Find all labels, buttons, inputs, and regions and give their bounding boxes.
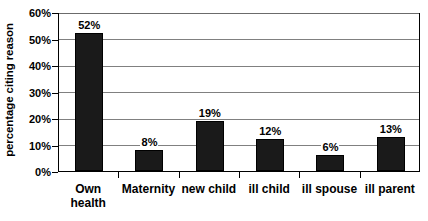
x-axis-category-label: ill parent bbox=[360, 182, 420, 196]
x-axis-category-label: new child bbox=[179, 182, 239, 196]
y-axis-tick-mark bbox=[52, 146, 58, 147]
x-axis-category-label: Own health bbox=[58, 182, 118, 210]
y-axis-tick-mark bbox=[52, 93, 58, 94]
y-axis-tick-label: 10% bbox=[29, 140, 51, 152]
bar[interactable] bbox=[316, 155, 344, 171]
y-axis-tick-label: 30% bbox=[29, 87, 51, 99]
bar-chart: percentage citing reason 0%10%20%30%40%5… bbox=[0, 0, 428, 221]
bar-value-label: 19% bbox=[198, 107, 222, 119]
bar-slot: 8% bbox=[119, 13, 179, 171]
x-axis-tick-mark bbox=[118, 172, 119, 178]
y-axis-tick-label: 0% bbox=[35, 166, 51, 178]
bar-slot: 19% bbox=[180, 13, 240, 171]
x-axis-tick-mark bbox=[360, 172, 361, 178]
y-axis-title-text: percentage citing reason bbox=[3, 23, 15, 157]
bar-slot: 6% bbox=[300, 13, 360, 171]
bar[interactable] bbox=[75, 33, 103, 171]
x-axis-category-label: ill child bbox=[239, 182, 299, 196]
bar-value-label: 6% bbox=[322, 141, 340, 153]
y-axis-tick-labels: 0%10%20%30%40%50%60% bbox=[18, 0, 54, 180]
bar-value-label: 8% bbox=[141, 136, 159, 148]
x-axis-category-labels: Own healthMaternitynew childill childill… bbox=[58, 182, 420, 221]
plot-area: 52%8%19%12%6%13% bbox=[58, 13, 420, 172]
bar[interactable] bbox=[377, 137, 405, 171]
bar-value-label: 13% bbox=[379, 123, 403, 135]
bar-slot: 52% bbox=[59, 13, 119, 171]
bar-value-label: 12% bbox=[258, 125, 282, 137]
bar[interactable] bbox=[256, 139, 284, 171]
bar[interactable] bbox=[196, 121, 224, 171]
bar-slot: 12% bbox=[240, 13, 300, 171]
bar[interactable] bbox=[135, 150, 163, 171]
y-axis-tick-mark bbox=[52, 66, 58, 67]
bar-slot: 13% bbox=[361, 13, 421, 171]
y-axis-tick-mark bbox=[52, 172, 58, 173]
y-axis-tick-label: 50% bbox=[29, 34, 51, 46]
x-axis-tick-mark bbox=[239, 172, 240, 178]
y-axis-tick-mark bbox=[52, 40, 58, 41]
bar-value-label: 52% bbox=[77, 19, 101, 31]
y-axis-title: percentage citing reason bbox=[0, 0, 18, 180]
y-axis-tick-mark bbox=[52, 119, 58, 120]
y-axis-tick-label: 20% bbox=[29, 113, 51, 125]
x-axis-tick-mark bbox=[299, 172, 300, 178]
x-axis-category-label: ill spouse bbox=[299, 182, 359, 196]
y-axis-tick-label: 60% bbox=[29, 7, 51, 19]
y-axis-tick-mark bbox=[52, 13, 58, 14]
y-axis-tick-label: 40% bbox=[29, 60, 51, 72]
x-axis-tick-mark bbox=[179, 172, 180, 178]
x-axis-category-label: Maternity bbox=[118, 182, 178, 196]
